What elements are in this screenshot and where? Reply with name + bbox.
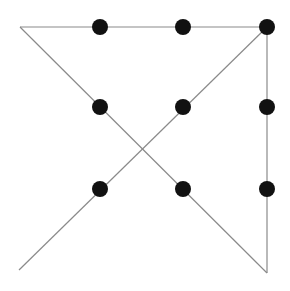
dot-5 — [175, 99, 191, 115]
dot-6 — [259, 99, 275, 115]
dot-4 — [92, 99, 108, 115]
dot-7 — [92, 181, 108, 197]
dot-8 — [175, 181, 191, 197]
dot-2 — [175, 19, 191, 35]
dot-3 — [259, 19, 275, 35]
dot-9 — [259, 181, 275, 197]
dot-1 — [92, 19, 108, 35]
line-segments — [19, 27, 267, 273]
diagram-canvas — [0, 0, 290, 291]
nine-dot-diagram — [0, 0, 290, 291]
